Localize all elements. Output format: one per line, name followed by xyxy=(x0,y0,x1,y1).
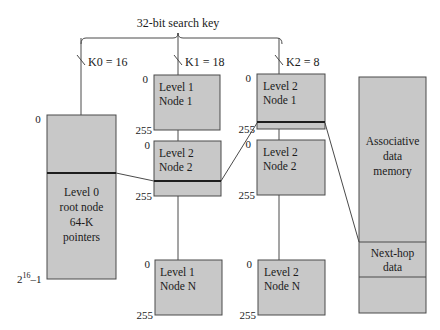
diagram-title: 32-bit search key xyxy=(137,16,220,30)
svg-text:Level 2: Level 2 xyxy=(263,146,298,158)
svg-text:Node N: Node N xyxy=(264,280,301,292)
col1-node2-index-bottom: 255 xyxy=(136,190,153,202)
svg-text:Node N: Node N xyxy=(160,280,197,292)
svg-text:Node 1: Node 1 xyxy=(159,95,193,107)
col2-noden-index-bottom: 255 xyxy=(240,309,257,321)
svg-text:Associative: Associative xyxy=(366,135,420,147)
svg-text:Node 2: Node 2 xyxy=(263,160,297,172)
svg-text:Level 1: Level 1 xyxy=(160,266,195,278)
level2-node-2: Level 2 Node 2 xyxy=(257,140,325,195)
search-tree-diagram: 32-bit search key K0 = 16 K1 = 18 K2 = 8… xyxy=(0,0,440,330)
level0-index-top: 0 xyxy=(35,113,41,125)
level0-index-bottom: 216–1 xyxy=(17,271,42,285)
k1-label: K1 = 18 xyxy=(185,55,224,69)
svg-text:Level 2: Level 2 xyxy=(263,80,298,92)
svg-text:data: data xyxy=(383,261,402,273)
col1-node1-index-bottom: 255 xyxy=(136,124,153,136)
svg-text:memory: memory xyxy=(373,165,412,178)
k0-label: K0 = 16 xyxy=(88,55,127,69)
level2-node-n: Level 2 Node N xyxy=(258,260,325,315)
level0-root-node: Level 0 root node 64-K pointers xyxy=(47,115,116,279)
col1-noden-index-bottom: 255 xyxy=(137,309,154,321)
col1-level2-node-2: Level 2 Node 2 xyxy=(154,141,221,196)
next-hop-label: Next-hop xyxy=(371,247,415,260)
col1-node1-index-top: 0 xyxy=(143,73,149,85)
svg-text:Level 1: Level 1 xyxy=(159,81,194,93)
svg-text:data: data xyxy=(383,150,402,162)
pointer-col2-to-memory xyxy=(325,123,359,242)
svg-text:Level 0: Level 0 xyxy=(64,186,99,198)
svg-text:64-K: 64-K xyxy=(70,216,94,228)
svg-text:Level 2: Level 2 xyxy=(159,147,194,159)
svg-text:Node 1: Node 1 xyxy=(263,94,297,106)
key-brace xyxy=(81,33,282,44)
associative-data-memory: Associative data memory Next-hop data xyxy=(359,77,426,313)
pointer-level0-to-col1 xyxy=(116,173,154,181)
col1-noden-index-top: 0 xyxy=(145,258,151,270)
k2-label: K2 = 8 xyxy=(286,55,319,69)
svg-text:Node 2: Node 2 xyxy=(159,161,193,173)
svg-text:pointers: pointers xyxy=(63,231,101,244)
level1-node-n: Level 1 Node N xyxy=(155,260,222,315)
level1-node-1: Level 1 Node 1 xyxy=(154,75,220,130)
svg-text:root node: root node xyxy=(60,201,104,213)
level2-node-1: Level 2 Node 1 xyxy=(257,74,325,129)
col2-noden-index-top: 0 xyxy=(247,258,253,270)
svg-text:Level 2: Level 2 xyxy=(264,266,299,278)
col2-node2-index-bottom: 255 xyxy=(239,189,256,201)
col2-node1-index-top: 0 xyxy=(246,72,252,84)
col1-node2-index-top: 0 xyxy=(145,139,151,151)
